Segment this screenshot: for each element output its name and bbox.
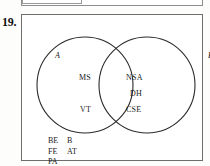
set-b-circle [99,37,195,133]
scanned-page: Matching 19. A B MS VT NSA DH CSE BEB FE… [0,0,210,166]
outside-row: BEB [48,136,86,147]
outside-row: FEAT [48,147,86,158]
figure-box: A B MS VT NSA DH CSE BEB FEAT PA [21,14,203,161]
outside-item: B [67,136,86,147]
set-b-label: B [208,51,210,60]
top-clipped-label-text: Matching [26,0,54,1]
region-outside-items: BEB FEAT PA [48,136,86,166]
set-a-label: A [55,51,60,60]
region-a-item-vt: VT [80,105,91,114]
region-intersection-item-dh: DH [130,89,142,98]
question-number: 19. [2,15,16,30]
region-intersection-item-nsa: NSA [126,73,143,82]
outside-item: PA [48,157,67,166]
set-a-circle [37,37,133,133]
outside-item: BE [48,136,67,147]
region-a-item-ms: MS [79,73,91,82]
outside-item: FE [48,147,67,158]
region-intersection-item-cse: CSE [126,105,141,114]
top-clipped-label-box: Matching [22,0,82,4]
outside-item: AT [67,147,86,158]
outside-row: PA [48,157,86,166]
